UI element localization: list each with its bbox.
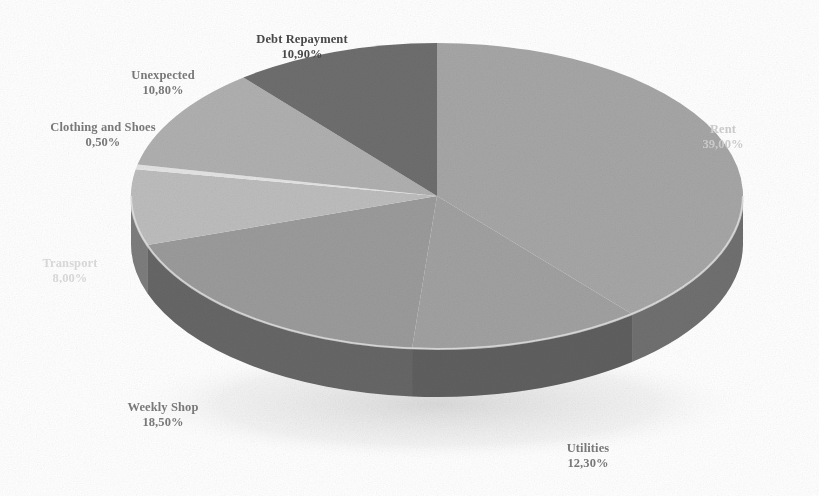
- pie-label-utilities-name: Utilities: [528, 441, 648, 456]
- pie-label-debt-repayment-value: 10,90%: [212, 47, 392, 62]
- pie-chart-figure: Rent 39,00%Utilities 12,30%Weekly Shop 1…: [0, 0, 819, 496]
- pie-label-unexpected-name: Unexpected: [88, 68, 238, 83]
- pie-label-debt-repayment: Debt Repayment 10,90%: [212, 32, 392, 62]
- pie-label-rent-value: 39,00%: [668, 137, 778, 152]
- pie-label-rent-name: Rent: [668, 122, 778, 137]
- pie-label-unexpected: Unexpected 10,80%: [88, 68, 238, 98]
- pie-label-weekly-shop-value: 18,50%: [88, 415, 238, 430]
- pie-label-utilities: Utilities 12,30%: [528, 441, 648, 471]
- pie-label-clothing-and-shoes-value: 0,50%: [18, 135, 188, 150]
- pie-label-weekly-shop-name: Weekly Shop: [88, 400, 238, 415]
- pie-label-transport: Transport 8,00%: [15, 256, 125, 286]
- pie-label-rent: Rent 39,00%: [668, 122, 778, 152]
- pie-label-debt-repayment-name: Debt Repayment: [212, 32, 392, 47]
- pie-label-weekly-shop: Weekly Shop 18,50%: [88, 400, 238, 430]
- pie-label-clothing-and-shoes: Clothing and Shoes 0,50%: [18, 120, 188, 150]
- pie-label-transport-value: 8,00%: [15, 271, 125, 286]
- pie-label-clothing-and-shoes-name: Clothing and Shoes: [18, 120, 188, 135]
- pie-label-transport-name: Transport: [15, 256, 125, 271]
- pie-label-utilities-value: 12,30%: [528, 456, 648, 471]
- pie-label-unexpected-value: 10,80%: [88, 83, 238, 98]
